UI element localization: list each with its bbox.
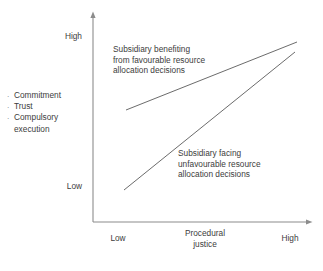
annotation-favourable: Subsidiary benefiting from favourable re…: [113, 44, 243, 76]
list-item: · Commitment: [7, 90, 89, 101]
factor-label: Compulsory execution: [14, 112, 58, 133]
factor-label: Commitment: [14, 90, 61, 100]
list-item: · Compulsory execution: [7, 112, 89, 134]
list-item: · Trust: [7, 101, 89, 112]
bullet-icon: ·: [7, 91, 9, 102]
x-axis-title-line2: justice: [158, 239, 252, 250]
y-axis-tick-high: High: [40, 31, 82, 41]
x-axis-title: Procedural justice: [158, 228, 252, 249]
y-axis-factor-list: · Commitment · Trust · Compulsory execut…: [7, 90, 89, 135]
annotation-unfavourable: Subsidiary facing unfavourable resource …: [178, 148, 310, 180]
factor-label: Trust: [14, 101, 33, 111]
x-axis-title-line1: Procedural: [158, 228, 252, 239]
x-axis-arrow-icon: [306, 219, 313, 224]
y-axis-arrow-icon: [90, 12, 95, 19]
bullet-icon: ·: [7, 102, 9, 113]
x-axis-tick-high: High: [270, 233, 310, 243]
x-axis-tick-low: Low: [98, 233, 138, 243]
y-axis-tick-low: Low: [40, 181, 82, 191]
figure-container: High Low · Commitment · Trust · Compulso…: [0, 0, 323, 271]
bullet-icon: ·: [7, 113, 9, 124]
